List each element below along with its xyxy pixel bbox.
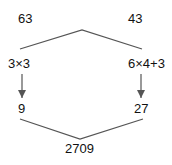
left-arrowhead-icon: [18, 90, 26, 98]
mid-left-expression: 3×3: [8, 57, 30, 70]
mid-right-expression: 6×4+3: [128, 57, 165, 70]
top-right-number: 43: [128, 12, 142, 25]
bottom-right-value: 27: [134, 102, 148, 115]
bottom-merge-line: [20, 119, 143, 139]
bottom-left-value: 9: [18, 102, 25, 115]
right-arrowhead-icon: [137, 90, 145, 98]
top-branch-line: [20, 30, 142, 49]
result-value: 2709: [65, 142, 94, 155]
top-left-number: 63: [18, 12, 32, 25]
